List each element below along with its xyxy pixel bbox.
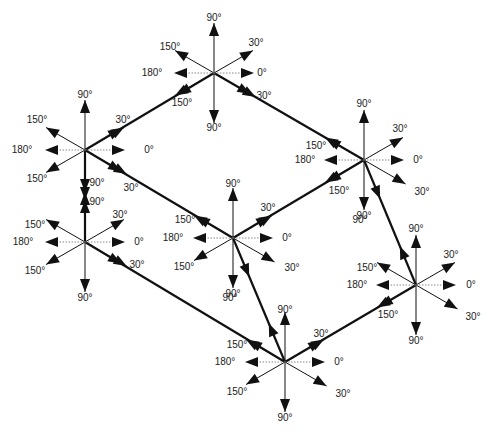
- angle-label: 180°: [12, 145, 33, 155]
- direction-arrow-icon: [174, 68, 187, 78]
- direction-arrow-icon: [80, 100, 90, 113]
- angle-label: 30°: [414, 187, 429, 197]
- direction-arrow-icon: [260, 233, 273, 243]
- angle-label: 30°: [256, 91, 271, 101]
- angle-label: 150°: [329, 186, 350, 196]
- direction-arrow-icon: [359, 197, 369, 210]
- node-bottom: [245, 312, 327, 412]
- direction-arrow-icon: [280, 399, 290, 412]
- direction-arrow-icon: [45, 145, 58, 155]
- angle-label: 30°: [443, 250, 458, 260]
- angle-label: 30°: [115, 115, 130, 125]
- direction-arrow-icon: [312, 357, 325, 367]
- angle-label: 150°: [357, 263, 378, 273]
- angle-label: 150°: [160, 42, 181, 52]
- angle-label: 180°: [215, 357, 236, 367]
- angle-label: 150°: [27, 174, 48, 184]
- direction-arrow-icon: [389, 138, 403, 149]
- angle-label: 90°: [206, 123, 221, 133]
- angle-label: 150°: [227, 387, 248, 397]
- angle-label: 90°: [408, 336, 423, 346]
- angle-label: 90°: [352, 215, 367, 225]
- angle-label: 0°: [282, 233, 292, 243]
- edge-arrow-icon: [240, 263, 250, 277]
- angle-label: 90°: [77, 90, 92, 100]
- direction-arrow-icon: [359, 110, 369, 123]
- edge-arrow-icon: [269, 323, 279, 337]
- angle-label: 90°: [206, 13, 221, 23]
- angle-label: 90°: [277, 305, 292, 315]
- direction-arrow-icon: [411, 322, 421, 335]
- angle-label: 30°: [123, 183, 138, 193]
- direction-arrow-icon: [228, 188, 238, 201]
- direction-arrow-icon: [46, 254, 60, 265]
- angle-label: 0°: [413, 155, 423, 165]
- angle-label: 150°: [378, 310, 399, 320]
- direction-arrow-icon: [112, 145, 125, 155]
- direction-arrow-icon: [245, 357, 258, 367]
- angle-label: 90°: [77, 293, 92, 303]
- diagram-canvas: [0, 0, 491, 435]
- direction-arrow-icon: [175, 51, 189, 62]
- angle-label: 0°: [134, 237, 144, 247]
- angle-label: 30°: [260, 203, 275, 213]
- node-top: [174, 23, 256, 123]
- direction-arrow-icon: [193, 233, 206, 243]
- angle-label: 90°: [89, 178, 104, 188]
- angle-label: 30°: [392, 124, 407, 134]
- direction-arrow-icon: [46, 162, 60, 173]
- angle-label: 180°: [13, 237, 34, 247]
- angle-label: 30°: [129, 260, 144, 270]
- direction-arrow-icon: [392, 173, 406, 184]
- angle-label: 0°: [144, 145, 154, 155]
- direction-arrow-icon: [194, 250, 208, 261]
- edge-arrow-icon: [371, 185, 381, 199]
- angle-label: 150°: [27, 115, 48, 125]
- direction-arrow-icon: [261, 251, 275, 262]
- angle-label: 0°: [334, 357, 344, 367]
- direction-arrow-icon: [377, 263, 391, 274]
- direction-arrow-icon: [324, 155, 337, 165]
- angle-label: 90°: [225, 179, 240, 189]
- angle-label: 180°: [347, 280, 368, 290]
- angle-label: 0°: [257, 68, 267, 78]
- angle-label: 150°: [174, 262, 195, 272]
- angle-label: 30°: [284, 263, 299, 273]
- edge-arrow-icon: [400, 246, 410, 260]
- direction-arrow-icon: [110, 220, 124, 231]
- direction-arrow-icon: [80, 279, 90, 292]
- direction-arrow-icon: [46, 220, 60, 231]
- direction-arrow-icon: [239, 51, 253, 62]
- direction-arrow-icon: [46, 128, 60, 139]
- angle-label: 150°: [175, 215, 196, 225]
- nodes-layer: [45, 23, 458, 412]
- angle-label: 150°: [172, 98, 193, 108]
- angle-label: 30°: [112, 210, 127, 220]
- angle-label: 180°: [163, 233, 184, 243]
- direction-arrow-icon: [443, 280, 456, 290]
- direction-arrow-icon: [246, 374, 260, 385]
- angle-label: 30°: [248, 38, 263, 48]
- angle-label: 30°: [313, 329, 328, 339]
- angle-label: 90°: [89, 197, 104, 207]
- direction-arrow-icon: [411, 235, 421, 248]
- angle-label: 150°: [25, 220, 46, 230]
- angle-label: 150°: [25, 266, 46, 276]
- angle-label: 30°: [335, 389, 350, 399]
- angle-label: 180°: [295, 155, 316, 165]
- direction-arrow-icon: [313, 375, 327, 386]
- angle-label: 90°: [408, 224, 423, 234]
- angle-label: 150°: [227, 340, 248, 350]
- angle-label: 150°: [306, 141, 327, 151]
- direction-arrow-icon: [444, 298, 458, 309]
- direction-arrow-icon: [112, 237, 125, 247]
- direction-arrow-icon: [241, 68, 254, 78]
- angle-label: 30°: [465, 312, 480, 322]
- angle-label: 90°: [277, 413, 292, 423]
- direction-arrow-icon: [209, 23, 219, 36]
- direction-arrow-icon: [45, 237, 58, 247]
- angle-label: 180°: [142, 68, 163, 78]
- direction-arrow-icon: [441, 263, 455, 274]
- direction-arrow-icon: [391, 155, 404, 165]
- angle-label: 90°: [356, 99, 371, 109]
